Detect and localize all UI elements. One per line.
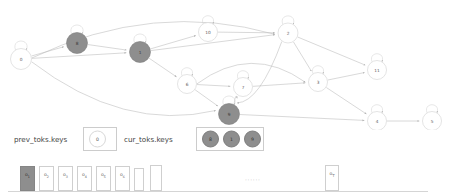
graph-node-3[interactable]: 3 bbox=[309, 73, 328, 92]
graph-edge bbox=[195, 90, 218, 106]
graph-edge bbox=[328, 73, 365, 80]
token-bar[interactable]: o4 bbox=[77, 166, 92, 191]
graph-node-11[interactable]: 11 bbox=[368, 61, 387, 80]
token-bar-label: o1 bbox=[25, 172, 30, 179]
node-label: 4 bbox=[376, 119, 379, 124]
node-label: 2 bbox=[287, 31, 290, 36]
graph-edge bbox=[293, 42, 311, 71]
graph-edge bbox=[32, 47, 64, 56]
token-bar[interactable]: o2 bbox=[39, 166, 54, 191]
graph-edge bbox=[149, 58, 176, 77]
token-bar[interactable]: o1 bbox=[20, 166, 35, 191]
graph-edge bbox=[151, 36, 196, 49]
ellipsis: ······ bbox=[245, 176, 261, 183]
graph-node-2[interactable]: 2 bbox=[278, 23, 298, 43]
token-bar[interactable]: o6 bbox=[115, 166, 130, 191]
token-bar[interactable]: o5 bbox=[96, 166, 111, 191]
node-layer: 08110267931145 bbox=[11, 23, 442, 131]
baseline bbox=[8, 191, 428, 192]
graph-edge bbox=[32, 53, 126, 59]
node-label: 1 bbox=[139, 50, 142, 55]
prev-toks-keys-label: prev_toks.keys bbox=[14, 135, 67, 144]
graph-node-1[interactable]: 1 bbox=[130, 42, 151, 63]
token-bar-label-sub: T bbox=[332, 174, 334, 178]
token-bar-label: o3 bbox=[63, 172, 68, 179]
graph-node-10[interactable]: 10 bbox=[199, 23, 218, 42]
graph-node-9[interactable]: 9 bbox=[219, 104, 240, 125]
node-label: 3 bbox=[317, 80, 320, 85]
token-bar-label-sub: 1 bbox=[28, 175, 30, 179]
token-bar-label-sub: 4 bbox=[85, 175, 87, 179]
token-bar-chart: ······ o1o2o3o4o5o6oT bbox=[0, 160, 452, 195]
token-bar-label: o5 bbox=[101, 172, 106, 179]
node-label: 5 bbox=[431, 119, 434, 124]
graph-edge bbox=[326, 88, 366, 114]
token-bar[interactable] bbox=[150, 165, 162, 191]
token-bar[interactable] bbox=[134, 168, 144, 191]
key-token-0[interactable]: 0 bbox=[89, 131, 106, 148]
cur-toks-keys-label: cur_toks.keys bbox=[124, 135, 173, 144]
token-bar[interactable]: o3 bbox=[58, 166, 73, 191]
token-bar-label-sub: 3 bbox=[66, 175, 68, 179]
node-label: 8 bbox=[76, 41, 79, 46]
keys-row: prev_toks.keys 0 cur_toks.keys 819 bbox=[0, 126, 452, 154]
graph-edge bbox=[240, 115, 364, 121]
token-bar-label-sub: 6 bbox=[123, 175, 125, 179]
state-graph: 08110267931145 bbox=[0, 0, 452, 130]
graph-node-8[interactable]: 8 bbox=[67, 33, 88, 54]
token-bar-label-sub: 5 bbox=[104, 175, 106, 179]
key-token-1[interactable]: 1 bbox=[223, 131, 240, 148]
node-label: 6 bbox=[186, 82, 189, 87]
cur-toks-keys-box: 819 bbox=[196, 127, 264, 151]
token-bar-label: o4 bbox=[82, 172, 87, 179]
node-label: 9 bbox=[228, 112, 231, 117]
graph-edge bbox=[197, 85, 230, 87]
node-label: 10 bbox=[205, 30, 211, 35]
token-bar-label: o6 bbox=[120, 172, 125, 179]
token-bar[interactable]: oT bbox=[325, 165, 339, 191]
node-label: 0 bbox=[20, 57, 23, 62]
token-bar-label: o2 bbox=[44, 172, 49, 179]
key-token-9[interactable]: 9 bbox=[244, 131, 261, 148]
token-bar-label: oT bbox=[330, 171, 335, 178]
node-label: 7 bbox=[242, 85, 245, 90]
graph-node-7[interactable]: 7 bbox=[234, 78, 253, 97]
graph-node-6[interactable]: 6 bbox=[178, 75, 197, 94]
graph-edge bbox=[88, 45, 127, 51]
prev-toks-keys-box: 0 bbox=[83, 127, 117, 151]
key-token-8[interactable]: 8 bbox=[202, 131, 219, 148]
figure-root: 08110267931145 prev_toks.keys 0 cur_toks… bbox=[0, 0, 452, 195]
graph-node-0[interactable]: 0 bbox=[11, 49, 32, 70]
node-label: 11 bbox=[374, 68, 380, 73]
graph-edge bbox=[197, 63, 305, 83]
graph-edge bbox=[253, 83, 305, 86]
token-bar-label-sub: 2 bbox=[47, 175, 49, 179]
graph-edge bbox=[234, 96, 237, 104]
graph-edge bbox=[298, 37, 366, 65]
